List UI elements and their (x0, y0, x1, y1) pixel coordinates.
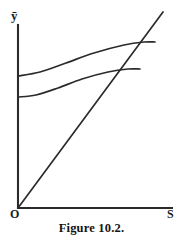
upper-effort-curve (18, 42, 155, 76)
figure-container: ȳ O S Figure 10.2. (0, 0, 183, 240)
forty-five-degree-ray (18, 12, 163, 208)
x-axis-label: S (167, 208, 174, 220)
figure-plot-area (0, 0, 183, 240)
origin-label: O (10, 208, 19, 220)
figure-caption: Figure 10.2. (0, 221, 183, 236)
y-axis-label: ȳ (11, 9, 18, 22)
